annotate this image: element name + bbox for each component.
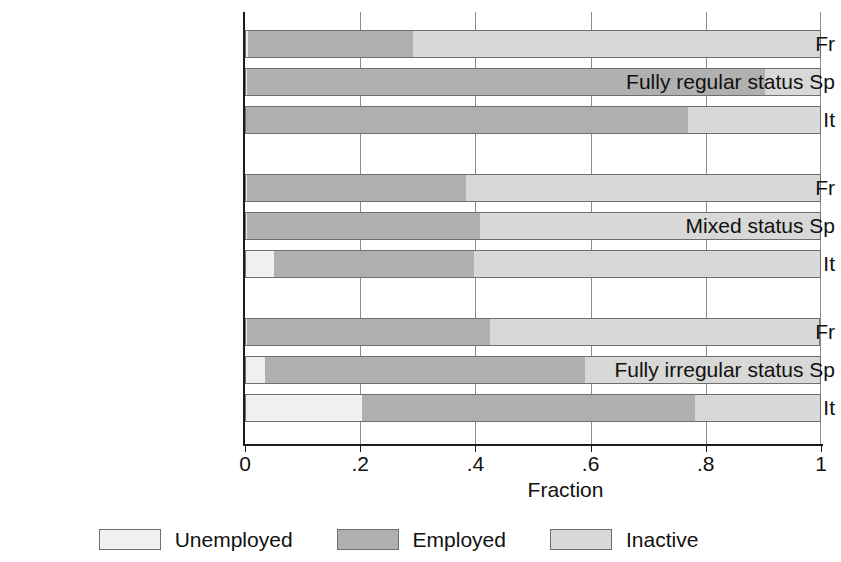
legend-swatch (99, 529, 161, 550)
x-tick-label: 1 (815, 452, 827, 476)
x-axis-title-wrap: Fraction (0, 478, 841, 502)
legend-item: Unemployed (99, 528, 337, 551)
x-axis-line (243, 444, 823, 446)
x-tick-mark (360, 444, 361, 452)
bar-segment-employed (265, 356, 585, 384)
legend-item: Inactive (550, 528, 742, 551)
legend-swatch (337, 529, 399, 550)
x-tick-label: .2 (351, 452, 369, 476)
y-category-label: It (605, 397, 841, 419)
bar-segment-employed (247, 174, 466, 202)
stacked-bar-chart: 0.2.4.6.81 Fraction FrFully regular stat… (0, 0, 841, 562)
bar-segment-employed (248, 30, 413, 58)
y-axis-line (243, 12, 245, 444)
x-tick-label: .6 (582, 452, 600, 476)
bar-segment-unemployed (245, 356, 265, 384)
bar-segment-unemployed (245, 394, 362, 422)
legend-item: Employed (337, 528, 550, 551)
legend-swatch (550, 529, 612, 550)
bar-segment-employed (274, 250, 473, 278)
x-tick-mark (245, 444, 246, 452)
y-category-label: Fully regular status Sp (605, 71, 841, 93)
x-tick-mark (706, 444, 707, 452)
chart-legend: UnemployedEmployedInactive (0, 528, 841, 551)
x-tick-label: .8 (697, 452, 715, 476)
bar-segment-unemployed (245, 250, 274, 278)
x-axis-title: Fraction (528, 478, 604, 501)
legend-label: Inactive (626, 528, 698, 551)
y-category-label: Mixed status Sp (605, 215, 841, 237)
legend-label: Unemployed (175, 528, 293, 551)
y-category-label: Fr (605, 321, 841, 343)
x-tick-label: .4 (467, 452, 485, 476)
y-category-label: It (605, 253, 841, 275)
bar-segment-employed (247, 318, 490, 346)
x-tick-label: 0 (239, 452, 251, 476)
y-category-label: Fr (605, 177, 841, 199)
y-category-label: It (605, 109, 841, 131)
y-category-label: Fully irregular status Sp (605, 359, 841, 381)
legend-label: Employed (413, 528, 506, 551)
bar-segment-employed (247, 212, 480, 240)
x-tick-mark (591, 444, 592, 452)
x-tick-mark (475, 444, 476, 452)
x-tick-mark (821, 444, 822, 452)
y-category-label: Fr (605, 33, 841, 55)
